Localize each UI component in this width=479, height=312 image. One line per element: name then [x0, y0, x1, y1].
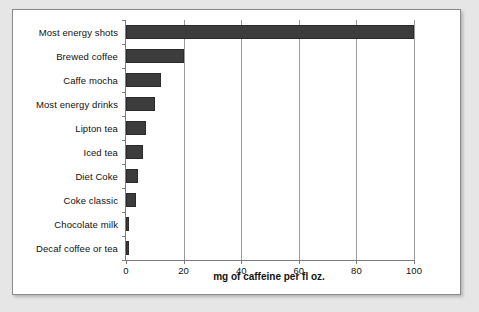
x-axis-tick — [356, 260, 357, 264]
x-axis-tick — [241, 260, 242, 264]
chart-panel: Most energy shotsBrewed coffeeCaffe moch… — [12, 9, 461, 295]
x-axis-tick — [414, 260, 415, 264]
category-label: Iced tea — [19, 140, 122, 164]
y-axis-tick — [122, 236, 126, 237]
y-axis-tick — [122, 44, 126, 45]
y-axis-tick — [122, 188, 126, 189]
plot-area: 020406080100 — [125, 20, 414, 261]
category-label: Most energy shots — [19, 20, 122, 44]
bar-row — [126, 92, 414, 116]
category-label: Caffe mocha — [19, 68, 122, 92]
bar-row — [126, 140, 414, 164]
bar — [126, 193, 136, 207]
y-axis-tick — [122, 212, 126, 213]
gridline — [414, 20, 415, 260]
bars-group — [126, 20, 414, 260]
bar-row — [126, 188, 414, 212]
bar-row — [126, 44, 414, 68]
category-label: Diet Coke — [19, 164, 122, 188]
category-label: Chocolate milk — [19, 212, 122, 236]
category-label: Lipton tea — [19, 116, 122, 140]
category-label: Brewed coffee — [19, 44, 122, 68]
bar — [126, 97, 155, 111]
bar — [126, 241, 129, 255]
bar — [126, 217, 129, 231]
category-label: Coke classic — [19, 188, 122, 212]
y-axis-tick — [122, 92, 126, 93]
x-axis-tick — [299, 260, 300, 264]
x-axis-tick — [126, 260, 127, 264]
bar-row — [126, 20, 414, 44]
bar — [126, 73, 161, 87]
screenshot-root: Most energy shotsBrewed coffeeCaffe moch… — [0, 0, 479, 312]
y-axis-tick — [122, 140, 126, 141]
category-label: Most energy drinks — [19, 92, 122, 116]
category-label: Decaf coffee or tea — [19, 236, 122, 260]
bar — [126, 49, 184, 63]
y-axis-tick — [122, 260, 126, 261]
bar-row — [126, 212, 414, 236]
bar — [126, 121, 146, 135]
bar — [126, 145, 143, 159]
bar-row — [126, 164, 414, 188]
y-axis-tick — [122, 20, 126, 21]
caffeine-bar-chart: Most energy shotsBrewed coffeeCaffe moch… — [13, 10, 460, 294]
bar — [126, 25, 414, 39]
y-axis-tick — [122, 68, 126, 69]
bar-row — [126, 68, 414, 92]
y-axis-tick — [122, 164, 126, 165]
category-axis-labels: Most energy shotsBrewed coffeeCaffe moch… — [19, 20, 122, 260]
bar — [126, 169, 138, 183]
x-axis-title: mg of caffeine per fl oz. — [125, 271, 413, 282]
x-axis-tick — [184, 260, 185, 264]
y-axis-tick — [122, 116, 126, 117]
bar-row — [126, 116, 414, 140]
bar-row — [126, 236, 414, 260]
